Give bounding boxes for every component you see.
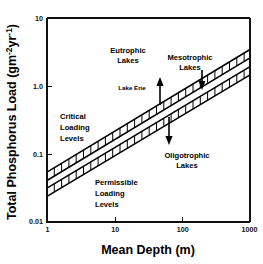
x-tick-label-100: 100 xyxy=(177,225,189,234)
chart-svg: 10 1.0 0.1 0.01 1 10 100 1000 Mean Depth… xyxy=(0,0,263,264)
y-axis-title: Total Phosphorus Load (gm-2yr-1) xyxy=(4,24,19,220)
eutrophic-label-line1: Eutrophic xyxy=(110,46,145,55)
critical-label-line3: Levels xyxy=(60,134,84,143)
y-tick-label-0-01: 0.01 xyxy=(29,217,43,226)
mesotrophic-label-line1: Mesotrophic xyxy=(167,53,212,62)
x-tick-label-10: 10 xyxy=(111,225,119,234)
y-axis-title-part3: ) xyxy=(5,24,19,28)
y-axis-title-part1: Total Phosphorus Load (gm xyxy=(5,55,19,220)
critical-label-line1: Critical xyxy=(60,112,86,121)
x-axis-title: Mean Depth (m) xyxy=(101,243,195,257)
critical-label-line2: Loading xyxy=(60,123,90,132)
lake-erie-label: Lake Erie xyxy=(118,84,146,91)
annotation-lake-erie: Lake Erie xyxy=(118,84,146,91)
y-axis-title-part2: yr xyxy=(5,36,19,48)
y-tick-label-10: 10 xyxy=(35,14,43,23)
permissible-label-line3: Levels xyxy=(95,200,119,209)
x-tick-label-1000: 1000 xyxy=(242,225,258,234)
eutrophic-label-line2: Lakes xyxy=(117,56,139,65)
mesotrophic-label-line2: Lakes xyxy=(179,63,201,72)
x-tick-label-1: 1 xyxy=(46,225,50,234)
oligotrophic-label-line2: Lakes xyxy=(176,161,198,170)
y-tick-label-0-1: 0.1 xyxy=(33,150,43,159)
phosphorus-load-chart: 10 1.0 0.1 0.01 1 10 100 1000 Mean Depth… xyxy=(0,0,263,264)
permissible-label-line2: Loading xyxy=(95,189,125,198)
y-tick-label-1: 1.0 xyxy=(33,82,43,91)
permissible-label-line1: Permissible xyxy=(95,178,138,187)
oligotrophic-label-line1: Oligotrophic xyxy=(164,151,209,160)
svg-text:Total Phosphorus Load (gm-2yr-: Total Phosphorus Load (gm-2yr-1) xyxy=(4,24,19,220)
